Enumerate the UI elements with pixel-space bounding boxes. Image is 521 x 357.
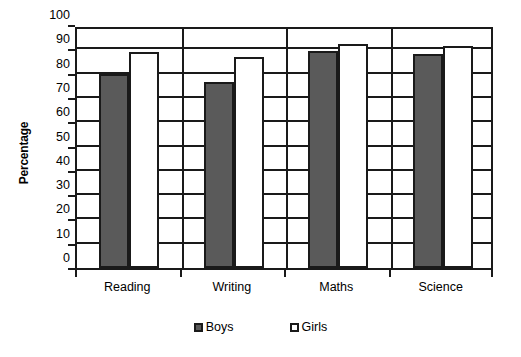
category-divider [182,29,184,268]
y-tick-mark [68,219,75,221]
x-axis-labels: ReadingWritingMathsScience [75,280,493,302]
legend-swatch-icon [290,323,299,332]
y-tick-label: 90 [36,33,70,45]
x-axis-label-science: Science [419,280,463,294]
bar-reading-girls [129,52,159,268]
legend-label: Girls [302,320,328,334]
y-tick-mark [68,49,75,51]
y-tick-mark [68,98,75,100]
bar-maths-boys [308,51,338,268]
x-tick-mark [180,270,182,277]
y-axis-title: Percentage [17,93,31,213]
y-tick-label: 50 [36,131,70,143]
x-axis-label-maths: Maths [319,280,353,294]
bar-maths-girls [338,44,368,268]
x-tick-mark [389,270,391,277]
y-tick-label: 30 [36,179,70,191]
bar-reading-boys [99,74,129,268]
y-axis-ticks: 0102030405060708090100 [30,27,70,270]
y-tick-label: 40 [36,155,70,167]
plot-area [75,27,493,270]
bar-writing-boys [204,82,234,268]
y-tick-mark [68,74,75,76]
x-axis-ticks [75,270,493,280]
y-tick-label: 80 [36,58,70,70]
bar-science-girls [443,46,473,268]
y-tick-mark [68,268,75,270]
y-tick-label: 60 [36,106,70,118]
legend-label: Boys [206,320,234,334]
bar-chart: Percentage 0102030405060708090100 Readin… [0,0,521,357]
x-tick-mark [75,270,77,277]
category-divider [391,29,393,268]
y-tick-mark [68,147,75,149]
category-divider [286,29,288,268]
bar-writing-girls [234,57,264,268]
legend-item-boys[interactable]: Boys [194,320,234,334]
y-tick-mark [68,195,75,197]
y-tick-mark [68,122,75,124]
legend-swatch-icon [194,323,203,332]
y-tick-label: 20 [36,203,70,215]
y-tick-label: 0 [36,252,70,264]
x-tick-mark [284,270,286,277]
y-tick-label: 100 [36,9,70,21]
y-tick-mark [68,171,75,173]
x-axis-label-reading: Reading [104,280,151,294]
x-axis-label-writing: Writing [212,280,251,294]
legend-item-girls[interactable]: Girls [290,320,328,334]
x-tick-mark [491,270,493,277]
y-tick-label: 10 [36,228,70,240]
gridline [77,47,491,49]
y-tick-label: 70 [36,82,70,94]
chart-legend: BoysGirls [0,320,521,334]
bar-science-boys [413,54,443,268]
y-tick-mark [68,25,75,27]
y-tick-mark [68,244,75,246]
